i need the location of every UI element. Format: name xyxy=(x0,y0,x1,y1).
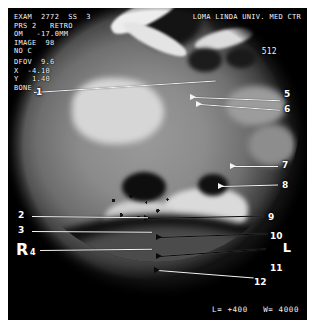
matrix-size-label: 512 xyxy=(262,48,277,57)
arrowhead-12 xyxy=(154,267,160,273)
ct-image-viewport[interactable]: EXAM 2772 SS 3 PRS 2 RETRO OM -17.0MM IM… xyxy=(8,8,307,320)
arrowhead-10 xyxy=(156,234,162,240)
annotation-label-3: 3 xyxy=(18,226,24,235)
orientation-marker-left: L xyxy=(283,240,291,255)
air-space xyxy=(226,48,256,68)
orientation-marker-right: R xyxy=(16,240,28,259)
arrowhead-6 xyxy=(196,101,202,107)
arrowhead-11 xyxy=(156,253,162,259)
annotation-label-8: 8 xyxy=(282,181,288,190)
annotation-label-5: 5 xyxy=(284,90,290,99)
ct-viewer-screenshot: EXAM 2772 SS 3 PRS 2 RETRO OM -17.0MM IM… xyxy=(0,0,315,336)
arrowhead-5 xyxy=(190,94,196,100)
annotation-label-7: 7 xyxy=(282,161,288,170)
annotation-label-11: 11 xyxy=(270,264,283,273)
annotation-label-12: 12 xyxy=(254,278,267,287)
exam-info-header: EXAM 2772 SS 3 PRS 2 RETRO OM -17.0MM IM… xyxy=(14,13,91,56)
annotation-label-10: 10 xyxy=(270,232,283,241)
annotation-label-6: 6 xyxy=(284,105,290,114)
air-space xyxy=(188,48,222,72)
annotation-label-9: 9 xyxy=(268,213,274,222)
annotation-label-2: 2 xyxy=(18,211,24,220)
arrowhead-7 xyxy=(230,163,236,169)
annotation-label-1: 1 xyxy=(36,88,42,97)
window-level-status: L= +400 W= 4000 xyxy=(212,306,299,315)
institution-header: LOMA LINDA UNIV. MED CTR xyxy=(193,13,301,22)
annotation-label-4: 4 xyxy=(30,248,36,257)
leader-line-7 xyxy=(234,166,278,167)
bone-structure xyxy=(248,124,296,166)
technique-block: DFOV 9.6 X -4.10 Y 1.40 BONE xyxy=(14,58,55,92)
arrowhead-8 xyxy=(218,183,224,189)
